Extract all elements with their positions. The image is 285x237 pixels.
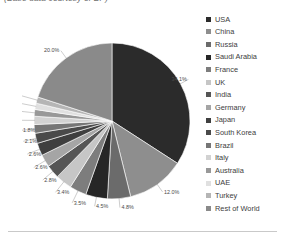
- legend-item-label: USA: [215, 16, 230, 23]
- pie-data-label: 2.8%: [44, 177, 56, 183]
- legend-swatch-icon: [206, 181, 211, 186]
- pie-label-leader-line: [157, 184, 163, 192]
- legend-swatch-icon: [206, 17, 211, 22]
- legend-item-label: Saudi Arabia: [215, 53, 257, 60]
- legend-item[interactable]: Germany: [206, 101, 284, 114]
- legend-item[interactable]: France: [206, 63, 284, 76]
- legend-item[interactable]: UAE: [206, 177, 284, 190]
- legend-swatch-icon: [206, 67, 211, 72]
- legend-item-label: South Korea: [215, 129, 256, 136]
- legend-item[interactable]: Saudi Arabia: [206, 51, 284, 64]
- legend-item[interactable]: Australia: [206, 164, 284, 177]
- legend-item-label: UK: [215, 79, 225, 86]
- pie-data-label: 3.5%: [74, 200, 86, 206]
- legend-item[interactable]: Italy: [206, 152, 284, 165]
- pie-data-label: 20.0%: [44, 47, 59, 53]
- legend-item-label: India: [215, 91, 231, 98]
- legend-swatch-icon: [206, 130, 211, 135]
- legend-item-label: Brazil: [215, 142, 233, 149]
- chart-legend: USAChinaRussiaSaudi ArabiaFranceUKIndiaG…: [206, 13, 284, 215]
- pie-slices-group: [34, 43, 190, 199]
- pie-label-leader-line: [119, 198, 120, 208]
- legend-item-label: Australia: [215, 167, 244, 174]
- legend-item[interactable]: South Korea: [206, 126, 284, 139]
- legend-item[interactable]: India: [206, 89, 284, 102]
- legend-swatch-icon: [206, 55, 211, 60]
- legend-item[interactable]: China: [206, 26, 284, 39]
- chart-page: (Base data courtesy of BP) 34.1%12.0%4.8…: [0, 0, 285, 237]
- pie-data-label: 3.4%: [57, 189, 69, 195]
- legend-item[interactable]: UK: [206, 76, 284, 89]
- legend-swatch-icon: [206, 118, 211, 123]
- pie-data-label: 4.5%: [96, 203, 108, 209]
- legend-item[interactable]: Japan: [206, 114, 284, 127]
- pie-data-label: 2.6%: [35, 164, 47, 170]
- pie-chart-svg: 34.1%12.0%4.8%4.5%3.5%3.4%2.8%2.6%2.6%2.…: [22, 22, 202, 218]
- legend-item-label: Turkey: [215, 192, 237, 199]
- legend-swatch-icon: [206, 206, 211, 211]
- legend-item-label: Italy: [215, 154, 229, 161]
- legend-swatch-icon: [206, 143, 211, 148]
- legend-swatch-icon: [206, 155, 211, 160]
- legend-swatch-icon: [206, 105, 211, 110]
- legend-item[interactable]: Russia: [206, 38, 284, 51]
- legend-swatch-icon: [206, 29, 211, 34]
- legend-swatch-icon: [206, 193, 211, 198]
- pie-data-label: 12.0%: [164, 189, 179, 195]
- pie-data-label: 2.1%: [25, 138, 37, 144]
- pie-label-leader-line: [22, 102, 36, 106]
- legend-item-label: China: [215, 28, 234, 35]
- legend-item-label: Russia: [215, 41, 238, 48]
- legend-item[interactable]: USA: [206, 13, 284, 26]
- legend-item-label: Rest of World: [215, 205, 260, 212]
- legend-item[interactable]: Brazil: [206, 139, 284, 152]
- legend-swatch-icon: [206, 92, 211, 97]
- pie-data-label: 34.1%: [172, 76, 187, 82]
- footer-divider: [8, 231, 277, 232]
- legend-item[interactable]: Turkey: [206, 189, 284, 202]
- pie-data-label: 1.8%: [23, 127, 35, 133]
- legend-item-label: UAE: [215, 179, 230, 186]
- pie-chart: 34.1%12.0%4.8%4.5%3.5%3.4%2.8%2.6%2.6%2.…: [22, 22, 202, 218]
- legend-swatch-icon: [206, 80, 211, 85]
- legend-item-label: Japan: [215, 116, 235, 123]
- pie-label-leader-line: [61, 51, 67, 59]
- legend-item-label: Germany: [215, 104, 245, 111]
- pie-data-label: 4.8%: [121, 204, 133, 210]
- pie-label-leader-line: [22, 110, 35, 112]
- pie-label-leader-line: [22, 94, 38, 100]
- chart-caption: (Base data courtesy of BP): [4, 0, 108, 3]
- legend-swatch-icon: [206, 42, 211, 47]
- legend-item-label: France: [215, 66, 238, 73]
- pie-data-label: 2.6%: [29, 151, 41, 157]
- legend-item[interactable]: Rest of World: [206, 202, 284, 215]
- legend-swatch-icon: [206, 168, 211, 173]
